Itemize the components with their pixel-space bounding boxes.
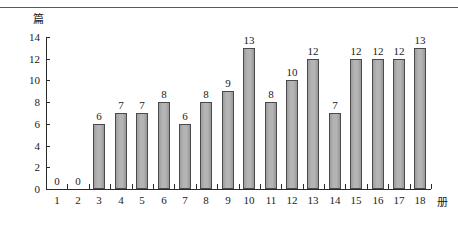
x-axis-tick-label: 15 xyxy=(345,194,367,206)
bar-value-label: 12 xyxy=(344,45,368,57)
x-axis-tick xyxy=(132,184,133,189)
bar-value-label: 13 xyxy=(408,34,432,46)
bar xyxy=(329,113,341,189)
x-axis-unit-label: 册 xyxy=(437,196,448,208)
x-axis-tick-label: 3 xyxy=(88,194,110,206)
x-axis-tick xyxy=(410,184,411,189)
bar-value-label: 8 xyxy=(194,88,218,100)
bar xyxy=(115,113,127,189)
x-axis-tick xyxy=(367,184,368,189)
x-axis-tick-label: 2 xyxy=(67,194,89,206)
bar xyxy=(200,102,212,189)
x-axis-tick xyxy=(239,184,240,189)
x-axis-tick xyxy=(281,184,282,189)
x-axis-tick xyxy=(388,184,389,189)
y-axis-tick-label: 12 xyxy=(18,54,40,65)
bar xyxy=(372,59,384,189)
x-axis-tick-label: 1 xyxy=(46,194,68,206)
bar xyxy=(307,59,319,189)
x-axis-line xyxy=(46,189,431,190)
x-axis-tick-label: 13 xyxy=(302,194,324,206)
y-axis-tick xyxy=(46,59,50,60)
bar-value-label: 8 xyxy=(259,88,283,100)
bar-value-label: 6 xyxy=(173,110,197,122)
x-axis-tick xyxy=(217,184,218,189)
x-axis-tick-label: 8 xyxy=(195,194,217,206)
y-axis-tick xyxy=(46,189,50,190)
x-axis-tick-label: 16 xyxy=(367,194,389,206)
y-axis-tick-label: 14 xyxy=(18,32,40,43)
bar-value-label: 12 xyxy=(301,45,325,57)
x-axis-tick xyxy=(196,184,197,189)
bar-value-label: 7 xyxy=(130,99,154,111)
x-axis-tick xyxy=(174,184,175,189)
x-axis-tick-label: 10 xyxy=(238,194,260,206)
y-axis-tick xyxy=(46,37,50,38)
y-axis-tick-label: 2 xyxy=(18,162,40,173)
y-axis-tick xyxy=(46,80,50,81)
y-axis-tick-label: 4 xyxy=(18,141,40,152)
y-axis-tick-label: 8 xyxy=(18,97,40,108)
bar xyxy=(414,48,426,189)
x-axis-tick xyxy=(324,184,325,189)
bar-value-label: 10 xyxy=(280,66,304,78)
bar xyxy=(179,124,191,189)
bar xyxy=(158,102,170,189)
bar xyxy=(93,124,105,189)
y-axis-tick xyxy=(46,146,50,147)
top-divider-rule xyxy=(0,7,458,8)
x-axis-tick xyxy=(431,184,432,189)
x-axis-tick-label: 12 xyxy=(281,194,303,206)
x-axis-tick-label: 7 xyxy=(174,194,196,206)
x-axis-tick xyxy=(345,184,346,189)
bar-value-label: 9 xyxy=(216,77,240,89)
x-axis-tick-label: 5 xyxy=(131,194,153,206)
x-axis-tick xyxy=(303,184,304,189)
y-axis-tick xyxy=(46,102,50,103)
bar xyxy=(286,80,298,189)
y-axis-tick xyxy=(46,124,50,125)
bar-chart-figure: 篇 册 02468101214 006778689138101271212121… xyxy=(0,0,458,228)
bar-value-label: 6 xyxy=(87,110,111,122)
bar xyxy=(265,102,277,189)
bar xyxy=(393,59,405,189)
y-axis-tick xyxy=(46,167,50,168)
x-axis-tick xyxy=(153,184,154,189)
bar xyxy=(243,48,255,189)
bar-value-label: 0 xyxy=(66,175,90,187)
x-axis-tick xyxy=(110,184,111,189)
x-axis-tick xyxy=(260,184,261,189)
bar-value-label: 7 xyxy=(323,99,347,111)
x-axis-tick-label: 9 xyxy=(217,194,239,206)
y-axis-tick-label: 0 xyxy=(18,184,40,195)
x-axis-tick-label: 6 xyxy=(153,194,175,206)
x-axis-tick-label: 18 xyxy=(409,194,431,206)
y-axis-tick-label: 10 xyxy=(18,75,40,86)
x-axis-tick-label: 17 xyxy=(388,194,410,206)
bar-value-label: 12 xyxy=(387,45,411,57)
y-axis-tick-label: 6 xyxy=(18,119,40,130)
x-axis-tick-label: 14 xyxy=(324,194,346,206)
x-axis-tick-label: 4 xyxy=(110,194,132,206)
bar-value-label: 13 xyxy=(237,34,261,46)
bar xyxy=(222,91,234,189)
bar xyxy=(136,113,148,189)
y-axis-unit-label: 篇 xyxy=(33,13,44,25)
bar-value-label: 8 xyxy=(152,88,176,100)
x-axis-tick-label: 11 xyxy=(260,194,282,206)
bar xyxy=(350,59,362,189)
